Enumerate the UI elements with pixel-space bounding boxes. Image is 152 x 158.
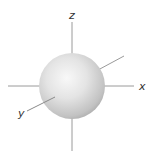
sphere [39, 53, 105, 119]
x-axis-label: x [138, 80, 146, 93]
y-axis-back [98, 56, 124, 70]
s-orbital-diagram: z x y [0, 0, 152, 158]
y-axis-label: y [17, 107, 25, 120]
z-axis-label: z [68, 9, 75, 22]
